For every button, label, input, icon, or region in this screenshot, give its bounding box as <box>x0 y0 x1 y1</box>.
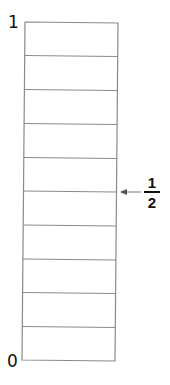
top-label: 1 <box>8 14 19 31</box>
fraction-denominator: 2 <box>144 195 160 210</box>
arrow-left-icon <box>120 189 141 195</box>
fraction-strip-diagram: 1 0 1 2 <box>0 0 170 385</box>
division-lines <box>22 56 117 328</box>
fraction-numerator: 1 <box>144 175 160 190</box>
bottom-label: 0 <box>7 353 18 370</box>
fraction-label: 1 2 <box>144 175 160 210</box>
fraction-bar <box>144 191 160 193</box>
